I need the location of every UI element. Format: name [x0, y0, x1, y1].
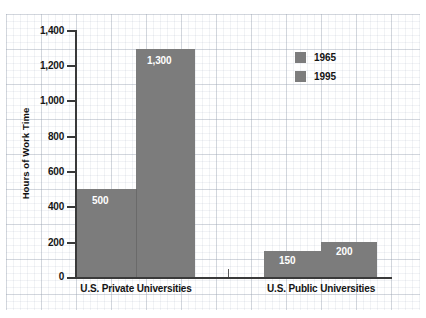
category-label-public: U.S. Public Universities [262, 283, 380, 294]
y-axis-title: Hours of Work Time [20, 79, 31, 229]
y-tick-label-800: 800 [48, 131, 64, 142]
legend-item-1965[interactable]: 1965 [295, 48, 336, 67]
y-tick-label-0: 0 [59, 271, 64, 282]
legend-item-1995[interactable]: 1995 [295, 67, 336, 86]
legend: 1965 1995 [295, 48, 336, 86]
plot-area: Hours of Work Time 1,400 1,200 1,000 800… [0, 0, 426, 318]
y-tick-label-1200: 1,200 [40, 60, 64, 71]
y-tick-1400 [67, 30, 75, 32]
y-tick-label-400: 400 [48, 201, 64, 212]
x-axis-line [75, 277, 392, 279]
legend-swatch-1965 [295, 52, 306, 63]
bar-chart: Hours of Work Time 1,400 1,200 1,000 800… [0, 0, 426, 318]
y-tick-1000 [67, 100, 75, 102]
y-tick-label-1000: 1,000 [40, 95, 64, 106]
bar-divider-private [136, 189, 137, 277]
legend-label-1995: 1995 [314, 71, 336, 82]
y-tick-1200 [67, 65, 75, 67]
bar-private-1995[interactable] [136, 49, 195, 277]
bar-label-private-1995: 1,300 [147, 55, 172, 66]
bar-label-public-1965: 150 [279, 255, 295, 266]
y-tick-400 [67, 206, 75, 208]
y-tick-800 [67, 136, 75, 138]
y-tick-200 [67, 242, 75, 244]
category-separator-tick [228, 269, 229, 277]
bar-label-public-1995: 200 [336, 246, 352, 257]
legend-label-1965: 1965 [314, 52, 336, 63]
y-tick-0 [67, 277, 75, 279]
y-tick-label-1400: 1,400 [40, 25, 64, 36]
legend-swatch-1995 [295, 71, 306, 82]
category-label-private: U.S. Private Universities [76, 283, 196, 294]
bar-label-private-1965: 500 [92, 195, 108, 206]
y-tick-600 [67, 171, 75, 173]
y-tick-label-200: 200 [48, 237, 64, 248]
y-tick-label-600: 600 [48, 166, 64, 177]
